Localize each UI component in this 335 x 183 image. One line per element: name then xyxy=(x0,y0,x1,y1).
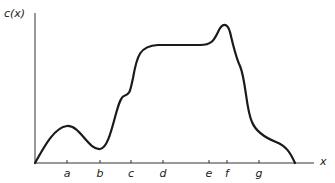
curve-c-of-x xyxy=(35,25,295,163)
diagram-canvas xyxy=(0,0,335,183)
x-axis-label: x xyxy=(320,156,327,167)
tick-label-f: f xyxy=(225,168,229,179)
tick-label-e: e xyxy=(206,168,213,179)
tick-label-a: a xyxy=(64,168,71,179)
tick-label-c: c xyxy=(128,168,134,179)
tick-label-g: g xyxy=(256,168,263,179)
y-axis-label: c(x) xyxy=(4,8,25,19)
tick-label-d: d xyxy=(160,168,167,179)
tick-label-b: b xyxy=(97,168,104,179)
